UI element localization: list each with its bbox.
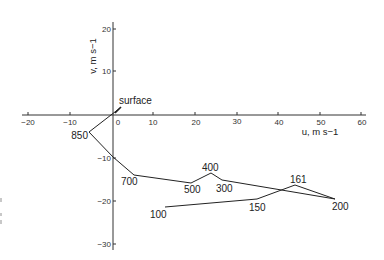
y-tick-label: −30 (97, 240, 111, 249)
label-700: 700 (121, 176, 138, 187)
y-tick-label: 10 (102, 67, 111, 76)
x-tick-label: 10 (149, 118, 158, 127)
y-tick-label: 20 (102, 25, 111, 34)
hodograph-line (89, 108, 335, 207)
x-tick-label: 40 (275, 118, 284, 127)
x-axis-title: u, m s−1 (302, 126, 339, 137)
label-400: 400 (202, 162, 219, 173)
label-300: 300 (216, 183, 233, 194)
y-tick-label: −10 (97, 154, 111, 163)
x-tick-label: −10 (63, 118, 77, 127)
label-161: 161 (290, 174, 307, 185)
hodograph-chart: −20 −10 0 10 20 30 40 50 60 20 10 −10 −2… (0, 0, 384, 260)
y-axis-title: v, m s−1 (87, 38, 98, 73)
x-tick-label: 30 (233, 117, 242, 126)
label-200: 200 (332, 201, 349, 212)
y-tick-labels: 20 10 −10 −20 −30 (97, 25, 111, 249)
label-150: 150 (249, 202, 266, 213)
label-surface: surface (119, 95, 152, 106)
label-850: 850 (71, 130, 88, 141)
x-tick-label: 20 (192, 118, 201, 127)
surface-tick (115, 107, 121, 113)
y-tick-label: −20 (97, 197, 111, 206)
label-500: 500 (184, 184, 201, 195)
x-tick-label: −20 (21, 118, 35, 127)
scan-artifacts (0, 198, 2, 224)
label-100: 100 (150, 209, 167, 220)
x-tick-label: 60 (358, 118, 367, 127)
x-tick-label: 0 (116, 118, 121, 127)
